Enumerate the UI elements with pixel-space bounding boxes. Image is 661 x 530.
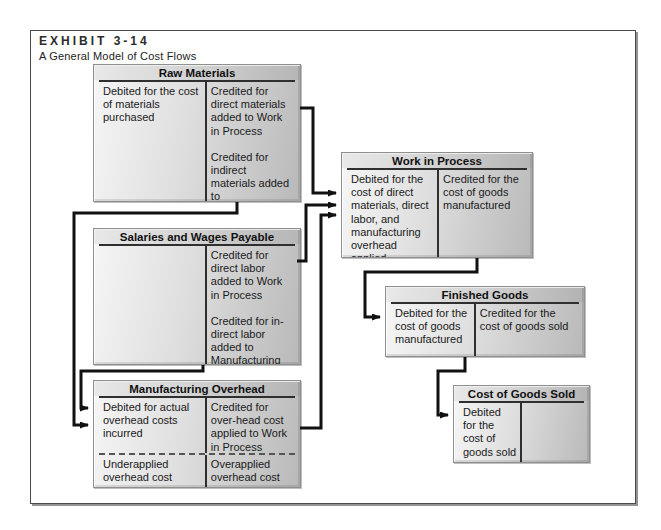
debit-cell: Debited for the cost of materials purcha…: [99, 82, 205, 201]
account-title: Cost of Goods Sold: [454, 386, 589, 401]
t-account-body: Debited for the cost of goods manufactur…: [391, 302, 579, 356]
exhibit-number: EXHIBIT 3-14: [39, 34, 196, 48]
account-title: Raw Materials: [94, 65, 300, 80]
debit-cell: Debited for the cost of goods manufactur…: [391, 304, 474, 356]
credit-cell: Credited for over-head cost applied to W…: [205, 398, 295, 453]
underapplied-cell: Underapplied overhead cost: [99, 455, 205, 487]
t-account-row: Debited for the cost of direct materials…: [347, 170, 527, 257]
t-account-body: Credited for direct labor added to Work …: [99, 244, 295, 364]
t-account-row: Debited for the cost of materials purcha…: [99, 82, 295, 201]
account-title: Manufacturing Overhead: [94, 381, 300, 396]
t-account-body: Debited for the cost of goods sold: [459, 401, 584, 462]
exhibit-subtitle: A General Model of Cost Flows: [39, 50, 196, 62]
credit-entry: Credited for in-direct labor added to Ma…: [211, 315, 291, 364]
credit-cell-empty: [520, 403, 584, 462]
t-account-row: Debited for the cost of goods sold: [459, 403, 584, 462]
debit-entry: Debited for the cost of goods manufactur…: [395, 307, 470, 347]
credit-entry: Credited for indirect materials added to…: [211, 151, 291, 201]
account-box-raw-materials: Raw Materials Debited for the cost of ma…: [93, 64, 301, 202]
t-account-body: Debited for the cost of direct materials…: [347, 168, 527, 257]
debit-cell-empty: [99, 246, 205, 364]
underapplied-label: Underapplied overhead cost: [103, 458, 201, 484]
debit-cell: Debited for actual overhead costs incurr…: [99, 398, 205, 453]
account-box-finished-goods: Finished Goods Debited for the cost of g…: [385, 286, 585, 357]
credit-entry: Credited for over-head cost applied to W…: [211, 401, 291, 453]
credit-entry: Credited for the cost of goods sold: [480, 307, 575, 333]
debit-cell: Debited for the cost of direct materials…: [347, 170, 437, 257]
credit-entry: Credited for direct labor added to Work …: [211, 249, 291, 302]
credit-entry: Credited for direct materials added to W…: [211, 85, 291, 138]
debit-entry: Debited for the cost of materials purcha…: [103, 85, 201, 125]
account-box-work-in-process: Work in Process Debited for the cost of …: [341, 152, 533, 258]
credit-cell: Credited for the cost of goods sold: [474, 304, 579, 356]
t-account-row: Debited for actual overhead costs incurr…: [99, 398, 295, 453]
account-title: Salaries and Wages Payable: [94, 229, 300, 244]
credit-cell: Credited for direct labor added to Work …: [205, 246, 295, 364]
debit-entry: Debited for the cost of goods sold: [463, 406, 516, 459]
debit-entry: Debited for actual overhead costs incurr…: [103, 401, 201, 441]
debit-cell: Debited for the cost of goods sold: [459, 403, 520, 462]
t-account-row: Credited for direct labor added to Work …: [99, 246, 295, 364]
credit-entry: Credited for the cost of goods manufactu…: [443, 173, 523, 213]
exhibit-figure: EXHIBIT 3-14 A General Model of Cost Flo…: [0, 0, 661, 530]
exhibit-header: EXHIBIT 3-14 A General Model of Cost Flo…: [39, 34, 196, 62]
account-title: Finished Goods: [386, 287, 584, 302]
credit-cell: Credited for the cost of goods manufactu…: [437, 170, 527, 257]
account-box-salaries-wages-payable: Salaries and Wages Payable Credited for …: [93, 228, 301, 365]
t-account-row: Debited for the cost of goods manufactur…: [391, 304, 579, 356]
account-title: Work in Process: [342, 153, 532, 168]
overapplied-cell: Overapplied overhead cost: [205, 455, 295, 487]
account-box-cost-of-goods-sold: Cost of Goods Sold Debited for the cost …: [453, 385, 590, 463]
overapplied-label: Overapplied overhead cost: [211, 458, 291, 484]
account-box-manufacturing-overhead: Manufacturing Overhead Debited for actua…: [93, 380, 301, 488]
t-account-body: Debited for actual overhead costs incurr…: [99, 396, 295, 487]
debit-entry: Debited for the cost of direct materials…: [351, 173, 433, 257]
credit-cell: Credited for direct materials added to W…: [205, 82, 295, 201]
t-account-body: Debited for the cost of materials purcha…: [99, 80, 295, 201]
t-account-row-applied-balance: Underapplied overhead cost Overapplied o…: [99, 453, 295, 487]
